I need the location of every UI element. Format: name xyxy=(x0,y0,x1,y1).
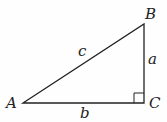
vertex-label-a: A xyxy=(4,94,17,112)
right-angle-marker xyxy=(134,93,144,103)
vertex-label-b: B xyxy=(144,5,156,23)
side-label-b: b xyxy=(80,104,90,122)
vertex-label-c: C xyxy=(149,94,161,112)
side-label-a: a xyxy=(148,50,157,68)
triangle-svg: A B C c a b xyxy=(0,0,167,122)
triangle-shape xyxy=(23,24,144,103)
right-triangle-diagram: A B C c a b xyxy=(0,0,167,122)
side-label-c: c xyxy=(78,42,87,60)
